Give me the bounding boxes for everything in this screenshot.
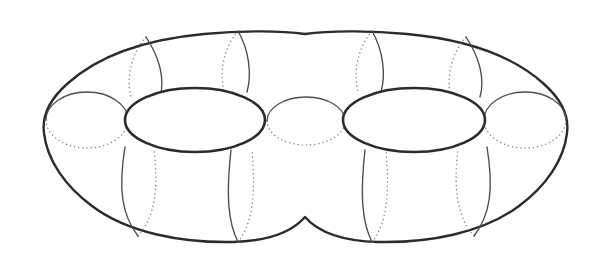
left-hole-ellipse xyxy=(125,88,265,152)
right-hole-ellipse xyxy=(343,88,485,152)
surface-outline-group xyxy=(44,31,568,242)
genus-2-surface-diagram: Genus-2 surface (double torus) Outline d… xyxy=(0,0,599,268)
figure-canvas: Genus-2 surface (double torus) Outline d… xyxy=(0,0,599,268)
surface-outline xyxy=(44,31,568,242)
